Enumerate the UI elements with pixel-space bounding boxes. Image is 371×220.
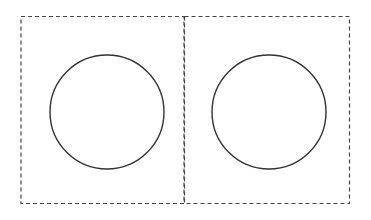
- right-circle: [212, 55, 326, 169]
- diagram-canvas: [0, 0, 371, 220]
- left-circle: [50, 55, 164, 169]
- right-panel-dashed-box: [185, 17, 350, 204]
- left-panel-dashed-box: [21, 17, 184, 204]
